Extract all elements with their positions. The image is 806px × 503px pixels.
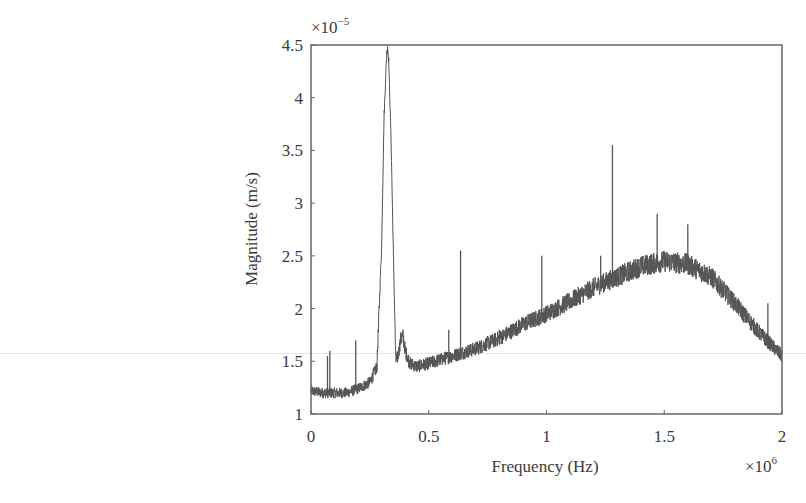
y-multiplier-base: ×10 (311, 18, 338, 37)
y-tick-label: 3 (295, 194, 304, 213)
x-tick-label: 1.5 (654, 427, 675, 446)
x-tick-label: 1 (542, 427, 551, 446)
y-multiplier-label: ×10−5 (311, 15, 350, 37)
y-tick-label: 4 (295, 89, 304, 108)
x-multiplier-label: ×106 (745, 454, 778, 476)
y-tick-label: 3.5 (282, 141, 303, 160)
y-tick-label: 4.5 (282, 36, 303, 55)
magnitude-series-line (311, 47, 782, 399)
y-tick-label: 2 (295, 300, 304, 319)
x-multiplier-base: ×10 (745, 457, 772, 476)
y-tick-label: 1.5 (282, 352, 303, 371)
plot-area (311, 47, 782, 399)
x-multiplier-exponent: 6 (772, 454, 778, 466)
y-tick-label: 1 (295, 405, 304, 424)
x-tick-label: 0 (307, 427, 316, 446)
x-axis-ticks: 00.511.52 (307, 410, 787, 446)
y-tick-label: 2.5 (282, 247, 303, 266)
y-multiplier-exponent: −5 (338, 15, 350, 27)
x-axis-title: Frequency (Hz) (491, 457, 598, 476)
x-tick-label: 0.5 (418, 427, 439, 446)
y-axis-title: Magnitude (m/s) (242, 172, 261, 286)
x-tick-label: 2 (778, 427, 787, 446)
spectrum-chart: 00.511.52 11.522.533.544.5 Frequency (Hz… (0, 0, 806, 503)
y-axis-ticks: 11.522.533.544.5 (282, 36, 315, 424)
